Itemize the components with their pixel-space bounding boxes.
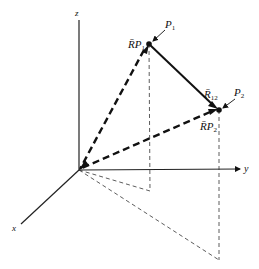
z-axis-label: z: [74, 8, 79, 18]
x-axis-label: x: [11, 223, 16, 233]
point-p2: [216, 107, 222, 113]
projection-lines: [79, 44, 219, 260]
p1-label: P1: [164, 18, 176, 32]
p2-pointer: [223, 99, 235, 108]
x-axis: [21, 170, 79, 224]
position-vectors: [80, 50, 210, 169]
vector-rp2: [82, 112, 210, 168]
rp1-label: R̄P1: [127, 38, 145, 52]
p2-floor-projection: [79, 170, 219, 260]
point-p1: [146, 41, 152, 47]
p2-label: P2: [233, 86, 245, 100]
vector-rp1: [80, 50, 144, 169]
y-axis: [79, 169, 240, 170]
rp2-label: R̄P2: [199, 120, 217, 134]
r12-label: R̄12: [203, 88, 218, 102]
p1-floor-projection: [79, 170, 150, 191]
vector-diagram: z y x P1 P2 R̄P1 R̄12 R̄P2: [0, 0, 259, 269]
y-axis-label: y: [243, 163, 249, 174]
p1-vertical-projection: [149, 44, 150, 191]
p1-pointer: [153, 30, 165, 41]
